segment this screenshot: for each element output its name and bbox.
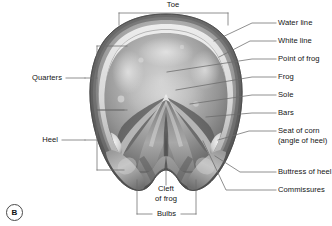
label-bulbs: Bulbs bbox=[152, 209, 181, 218]
sole-speck-b bbox=[138, 57, 143, 62]
sole-speck-d bbox=[180, 45, 184, 49]
label-quarters: Quarters bbox=[0, 73, 62, 82]
sole-speck-a bbox=[118, 96, 125, 103]
label-cleft-of-frog-line2: of frog bbox=[143, 194, 189, 203]
hoof-anatomy-figure: Toe Quarters Heel Water line White line … bbox=[0, 0, 332, 226]
label-white-line: White line bbox=[278, 36, 312, 45]
label-seat-of-corn-line1: Seat of corn bbox=[278, 126, 320, 135]
label-point-of-frog: Point of frog bbox=[278, 54, 320, 63]
label-heel: Heel bbox=[0, 135, 58, 144]
label-cleft-of-frog-line1: Cleft bbox=[143, 184, 189, 193]
label-bars: Bars bbox=[278, 108, 294, 117]
sole-highlight-top bbox=[138, 37, 194, 67]
label-seat-of-corn-line2: (angle of heel) bbox=[278, 136, 327, 145]
label-buttress-of-heel: Buttress of heel bbox=[278, 167, 332, 176]
label-sole: Sole bbox=[278, 90, 293, 99]
label-frog: Frog bbox=[278, 72, 294, 81]
label-toe: Toe bbox=[140, 0, 206, 9]
label-commissures: Commissures bbox=[278, 185, 325, 194]
sole-speck-c bbox=[193, 101, 199, 107]
label-water-line: Water line bbox=[278, 18, 312, 27]
panel-tag-b: B bbox=[6, 204, 23, 221]
